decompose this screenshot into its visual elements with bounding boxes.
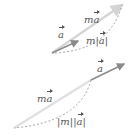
- bottom-label-magnitude: |m||a|: [57, 117, 86, 127]
- top-label-ma: ma: [84, 15, 99, 25]
- bottom-label-a: a: [97, 64, 103, 74]
- top-label-a: a: [58, 30, 64, 40]
- top-label-magnitude: m|a|: [86, 36, 108, 46]
- bottom-label-ma: ma: [37, 94, 52, 104]
- bottom-a-vector: [91, 64, 124, 80]
